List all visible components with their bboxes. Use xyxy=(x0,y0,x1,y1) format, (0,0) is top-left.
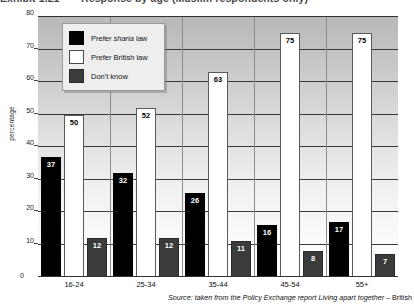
bar-45-54-sharia[interactable]: 16 xyxy=(257,225,277,277)
page-title: Exhibit 1.21 Response by age (Muslim res… xyxy=(0,0,414,6)
bar-value-label: 12 xyxy=(163,241,174,252)
legend-item-british[interactable]: Prefer British law xyxy=(69,49,159,65)
source-note: Source: taken from the Policy Exchange r… xyxy=(168,293,412,302)
bar-group-35-44: 266311 xyxy=(182,17,254,277)
bar-value-label: 75 xyxy=(356,36,367,47)
bar-value-label: 8 xyxy=(309,254,316,265)
y-axis-tick-labels: 1020304050607080 xyxy=(10,14,34,276)
bar-value-label: 16 xyxy=(261,228,272,239)
bar-55+-dontknow[interactable]: 7 xyxy=(375,254,395,277)
bar-value-label: 75 xyxy=(284,36,295,47)
source-lead: Source: taken from the Policy Exchange r… xyxy=(168,293,319,302)
legend-label-dontknow: Don't know xyxy=(91,72,128,81)
x-tick-label-45-54: 45-54 xyxy=(280,280,299,290)
x-tick-label-16-24: 16-24 xyxy=(64,280,83,290)
legend-item-sharia[interactable]: Prefer sharia law xyxy=(69,30,159,46)
bar-value-label: 50 xyxy=(68,117,79,128)
x-tick-label-35-44: 35-44 xyxy=(208,280,227,290)
y-tick-label-30: 30 xyxy=(10,172,34,179)
bar-35-44-dontknow[interactable]: 11 xyxy=(231,241,251,277)
bar-value-label: 17 xyxy=(333,224,344,235)
bar-value-label: 11 xyxy=(236,244,247,255)
legend-label-sharia: Prefer sharia law xyxy=(91,34,147,43)
bar-16-24-dontknow[interactable]: 12 xyxy=(87,238,107,277)
bar-45-54-dontknow[interactable]: 8 xyxy=(303,251,323,277)
figure-number: Exhibit 1.21 xyxy=(0,0,78,4)
bar-value-label: 52 xyxy=(140,111,151,122)
chart-legend: Prefer sharia lawPrefer British lawDon't… xyxy=(62,23,165,91)
legend-swatch-sharia xyxy=(69,31,84,45)
bar-16-24-sharia[interactable]: 37 xyxy=(41,157,61,277)
bar-45-54-british[interactable]: 75 xyxy=(280,33,300,277)
bar-value-label: 12 xyxy=(91,241,102,252)
bar-35-44-sharia[interactable]: 26 xyxy=(185,193,205,278)
y-tick-label-70: 70 xyxy=(10,42,34,49)
y-tick-label-80: 80 xyxy=(10,9,34,16)
bar-value-label: 7 xyxy=(381,257,388,268)
bar-35-44-british[interactable]: 63 xyxy=(208,72,228,277)
y-tick-label-10: 10 xyxy=(10,237,34,244)
source-trailing: – British xyxy=(384,293,412,302)
y-axis-zero-label: 0 xyxy=(20,272,24,279)
bar-55+-sharia[interactable]: 17 xyxy=(329,222,349,277)
y-tick-label-20: 20 xyxy=(10,204,34,211)
bar-25-34-british[interactable]: 52 xyxy=(136,108,156,277)
bar-value-label: 26 xyxy=(189,195,200,206)
x-axis-tick-labels: 16-2425-3435-4445-5455+ xyxy=(38,280,398,292)
bar-value-label: 32 xyxy=(117,176,128,187)
x-tick-label-55+: 55+ xyxy=(356,280,369,290)
y-tick-label-40: 40 xyxy=(10,139,34,146)
bar-25-34-dontknow[interactable]: 12 xyxy=(159,238,179,277)
x-tick-label-25-34: 25-34 xyxy=(136,280,155,290)
y-tick-label-60: 60 xyxy=(10,74,34,81)
legend-swatch-dontknow xyxy=(69,69,84,83)
bar-value-label: 63 xyxy=(212,75,223,86)
source-report-title: Living apart together xyxy=(319,293,385,302)
figure-title-text: Response by age (Muslim respondents only… xyxy=(81,0,308,4)
x-axis-line xyxy=(38,276,398,277)
legend-label-british: Prefer British law xyxy=(91,53,148,62)
bar-25-34-sharia[interactable]: 32 xyxy=(113,173,133,277)
y-tick-label-50: 50 xyxy=(10,107,34,114)
bar-16-24-british[interactable]: 50 xyxy=(64,115,84,278)
bar-group-45-54: 16758 xyxy=(254,17,326,277)
legend-item-dontknow[interactable]: Don't know xyxy=(69,68,159,84)
bar-55+-british[interactable]: 75 xyxy=(352,33,372,277)
bar-group-55+: 17757 xyxy=(326,17,398,277)
bar-value-label: 37 xyxy=(45,159,56,170)
legend-swatch-british xyxy=(69,50,84,64)
